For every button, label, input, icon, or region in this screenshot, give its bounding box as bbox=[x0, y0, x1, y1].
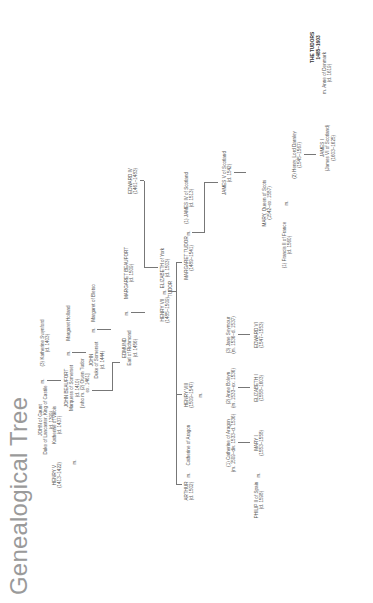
dates: (d. 1542) bbox=[227, 151, 232, 195]
person-henry-v: HENRY V (1413–1422) bbox=[52, 462, 63, 488]
marriage-symbol: m. bbox=[40, 378, 45, 383]
dates: (d. 1509) bbox=[129, 247, 134, 299]
dates: (d. 1560) bbox=[287, 222, 292, 268]
dates: (d. 1437) bbox=[57, 406, 62, 444]
person-edward-vi: EDWARD VI (1547–1553) bbox=[254, 322, 265, 348]
person-john-duke-of-somerset: JOHN Duke of Somerset (d. 1444) bbox=[89, 342, 105, 379]
dates: (1485–1509) bbox=[165, 297, 170, 323]
connector-line bbox=[47, 380, 61, 381]
dates: (d. 1444) bbox=[100, 342, 105, 379]
dates: (1545–1567) bbox=[297, 131, 302, 179]
children-connector-line bbox=[176, 263, 177, 485]
corner-label-dates: 1485–1603 bbox=[316, 32, 322, 63]
person-arthur: ARTHUR (d. 1502) bbox=[184, 481, 195, 500]
dates: (d. 1456) bbox=[133, 330, 138, 365]
dates: (1489–1541) bbox=[189, 236, 194, 279]
person-mary-queen-of-scots: MARY, Queen of Scots (1542–ex. 1587) bbox=[262, 180, 273, 227]
person-catherine-of-aragon-wife: (1) Catherine of Aragon (m. 1509–div. 15… bbox=[226, 414, 237, 472]
tudor-house-label: TUDOR bbox=[168, 281, 173, 297]
dates: (d. 1598) bbox=[259, 482, 264, 518]
tudors-corner-label: THE TUDORS 1485–1603 bbox=[310, 32, 321, 63]
marriage-symbol: m. bbox=[284, 200, 289, 205]
connector-line bbox=[131, 312, 145, 313]
connector-line bbox=[238, 387, 250, 388]
connector-line bbox=[72, 352, 86, 353]
person-anne-of-denmark: m. Anne of Denmark (d. 1619) bbox=[322, 52, 333, 94]
connector-line bbox=[204, 182, 218, 183]
marriage-symbol: m. bbox=[186, 230, 191, 235]
person-edward-iv: EDWARD IV (1461–1483) bbox=[128, 168, 139, 194]
marriage-symbol: m. bbox=[91, 327, 96, 332]
person-jane-seymour: (3) Jane Seymour (m. 1536–d. 1537) bbox=[226, 316, 237, 354]
person-henry-viii: HENRY VIII (1509–1547) bbox=[184, 382, 195, 408]
person-james-iv: (1) JAMES IV of Scotland (d. 1513) bbox=[184, 172, 195, 224]
connector-line bbox=[112, 363, 113, 391]
dates: (d. 1619) bbox=[327, 52, 332, 94]
dates: (m. 1536–d. 1537) bbox=[231, 316, 236, 354]
marriage-symbol: m. bbox=[162, 289, 167, 294]
person-katherine-swynford: (3) Katherine Swynford (d. 1403) bbox=[40, 320, 51, 367]
marriage-symbol: m. bbox=[66, 350, 71, 355]
dates: (1553–1558) bbox=[259, 430, 264, 456]
marriage-symbol: m. bbox=[256, 472, 261, 477]
person-edmund: EDMUND Earl of Richmond (d. 1456) bbox=[122, 330, 138, 365]
person-margaret-holland: Margaret Holland bbox=[66, 305, 71, 340]
connector-line bbox=[112, 362, 120, 363]
person-francis-ii: (1) Francis II of France (d. 1560) bbox=[282, 222, 293, 268]
person-philip-ii: PHILIP II of Spain (d. 1598) bbox=[254, 482, 265, 518]
person-katherine-of-valois: Katherine of Valois (d. 1437) bbox=[52, 406, 63, 444]
connector-line bbox=[144, 267, 158, 268]
connector-line bbox=[144, 181, 145, 268]
dates: (d. 1403) bbox=[45, 320, 50, 367]
genealogical-tree-page: Genealogical Tree THE TUDORS 1485–1603 J… bbox=[0, 0, 373, 603]
person-catherine-of-aragon: Catherine of Aragon bbox=[186, 425, 191, 466]
person-henry-vii: HENRY VII (1485–1509) bbox=[160, 297, 171, 323]
marriage-symbol: m. bbox=[186, 472, 191, 477]
page-title: Genealogical Tree bbox=[5, 397, 33, 595]
person-james-i: JAMES I (James VI of Scotland) (1603–162… bbox=[320, 125, 336, 171]
person-anne-boleyn: (2) Anne Boleyn (m. 1533–ex. 1536) bbox=[226, 368, 237, 408]
dates: (1461–1483) bbox=[133, 168, 138, 194]
dates: (1558–1603) bbox=[259, 374, 264, 402]
connector-line bbox=[234, 172, 246, 173]
person-james-v: JAMES V of Scotland (d. 1542) bbox=[222, 151, 233, 195]
dates: (1547–1553) bbox=[259, 322, 264, 348]
person-margaret-tudor: MARGARET TUDOR (1489–1541) bbox=[184, 236, 195, 279]
dates: (1542–ex. 1587) bbox=[267, 180, 272, 227]
connector-line bbox=[176, 484, 182, 485]
connector-line bbox=[192, 232, 204, 233]
dates: (m. 1533–ex. 1536) bbox=[231, 368, 236, 408]
connector-line bbox=[204, 183, 205, 233]
connector-line bbox=[238, 442, 250, 443]
person-mary-i: MARY I (1553–1558) bbox=[254, 430, 265, 456]
dates: (d. 1502) bbox=[189, 481, 194, 500]
connector-line bbox=[168, 291, 176, 292]
dates: (1413–1422) bbox=[57, 462, 62, 488]
connector-line bbox=[92, 390, 112, 391]
connector-line bbox=[97, 329, 111, 330]
marriage-symbol: m. bbox=[124, 310, 129, 315]
connector-line bbox=[304, 154, 316, 155]
corner-label-line: THE TUDORS bbox=[310, 32, 316, 63]
person-margaret-beaufort: MARGARET BEAUFORT (d. 1509) bbox=[124, 247, 135, 299]
dates: (m. 1509–div. 1533–d. 1536) bbox=[231, 414, 236, 472]
connector-line bbox=[176, 394, 182, 395]
person-owen-tudor-note: [who m. (2) Owen Tudor ex. 1461] bbox=[80, 358, 91, 407]
person-henry-darnley: (2) Henry, Lord Darnley (1545–1567) bbox=[292, 131, 303, 179]
marriage-symbol: m. bbox=[72, 459, 77, 464]
person-elizabeth-i: ELIZABETH I (1558–1603) bbox=[254, 374, 265, 402]
dates: (1509–1547) bbox=[189, 382, 194, 408]
person-john-beaufort: JOHN BEAUFORT Marquess of Somerset (d. 1… bbox=[64, 365, 80, 411]
dates: (1603–1625) bbox=[331, 125, 336, 171]
connector-line bbox=[176, 262, 182, 263]
dates: (d. 1513) bbox=[189, 172, 194, 224]
connector-line bbox=[238, 334, 250, 335]
marriage-symbol: m. bbox=[198, 392, 203, 397]
person-margaret-of-bletso: Margaret of Bletso bbox=[91, 284, 96, 322]
dates: ex. 1461] bbox=[85, 358, 90, 407]
